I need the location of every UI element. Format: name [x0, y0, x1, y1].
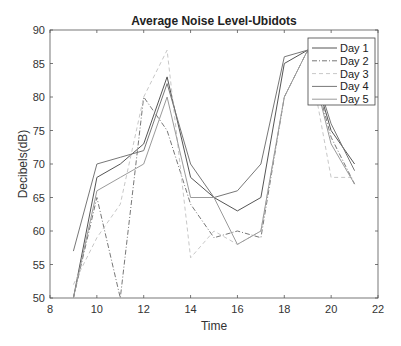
- legend-label: Day 3: [340, 68, 369, 80]
- y-tick-label: 90: [33, 24, 45, 36]
- y-tick-label: 55: [33, 259, 45, 271]
- x-tick-label: 14: [184, 303, 196, 315]
- x-tick-label: 16: [231, 303, 243, 315]
- chart: Average Noise Level-Ubidots 505560657075…: [0, 0, 401, 346]
- legend: Day 1Day 2Day 3Day 4Day 5: [308, 38, 375, 105]
- x-tick-label: 18: [278, 303, 290, 315]
- legend-label: Day 5: [340, 93, 369, 105]
- x-tick-label: 20: [325, 303, 337, 315]
- y-tick-label: 85: [33, 58, 45, 70]
- x-tick-label: 22: [372, 303, 384, 315]
- chart-title: Average Noise Level-Ubidots: [131, 14, 297, 28]
- y-tick-label: 65: [33, 192, 45, 204]
- x-tick-label: 12: [138, 303, 150, 315]
- y-tick-label: 70: [33, 158, 45, 170]
- y-axis-label: Decibels(dB): [16, 130, 30, 199]
- legend-label: Day 1: [340, 42, 369, 54]
- x-tick-label: 10: [91, 303, 103, 315]
- y-tick-label: 75: [33, 125, 45, 137]
- y-tick-label: 80: [33, 91, 45, 103]
- y-tick-label: 60: [33, 225, 45, 237]
- line-chart: Average Noise Level-Ubidots 505560657075…: [0, 0, 401, 346]
- x-axis-label: Time: [201, 319, 228, 333]
- x-tick-label: 8: [47, 303, 53, 315]
- legend-label: Day 4: [340, 80, 369, 92]
- legend-label: Day 2: [340, 55, 369, 67]
- y-tick-label: 50: [33, 292, 45, 304]
